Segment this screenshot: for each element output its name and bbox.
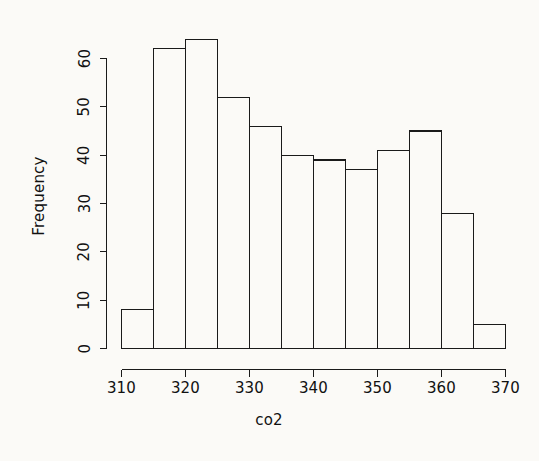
histogram-bar [186,39,218,348]
y-tick-label: 30 [76,194,94,214]
histogram-bar [474,324,506,348]
y-tick-label: 0 [76,344,94,354]
y-tick-label: 60 [76,49,94,69]
histogram-bar [378,150,410,348]
x-tick-label: 340 [299,379,328,397]
histogram-bar [250,126,282,348]
y-axis-ticks: 0102030405060 [76,49,107,354]
histogram-plot-panel: 0102030405060 310320330340350360370 co2 … [0,0,539,461]
y-tick-label: 50 [76,97,94,117]
bar-series [122,39,506,348]
y-tick-label: 20 [76,242,94,261]
x-tick-label: 320 [171,379,200,397]
x-tick-label: 360 [427,379,456,397]
histogram-bar [442,213,474,348]
histogram-bar [154,49,186,349]
histogram-bar [410,131,442,349]
histogram-bar [218,97,250,348]
x-tick-label: 330 [235,379,264,397]
y-axis-title: Frequency [30,156,48,235]
histogram-bar [314,160,346,349]
histogram-canvas: 0102030405060 310320330340350360370 co2 … [0,0,539,461]
x-tick-label: 310 [107,379,136,397]
y-axis: 0102030405060 [76,49,107,354]
y-tick-label: 10 [76,290,94,310]
x-axis-ticks: 310320330340350360370 [107,370,520,398]
histogram-bar [346,170,378,349]
x-tick-label: 350 [363,379,392,397]
x-tick-label: 370 [491,379,520,397]
histogram-bar [122,310,154,349]
y-tick-label: 40 [76,145,94,165]
x-axis: 310320330340350360370 [107,370,520,398]
histogram-bar [282,155,314,348]
x-axis-title: co2 [255,411,283,429]
